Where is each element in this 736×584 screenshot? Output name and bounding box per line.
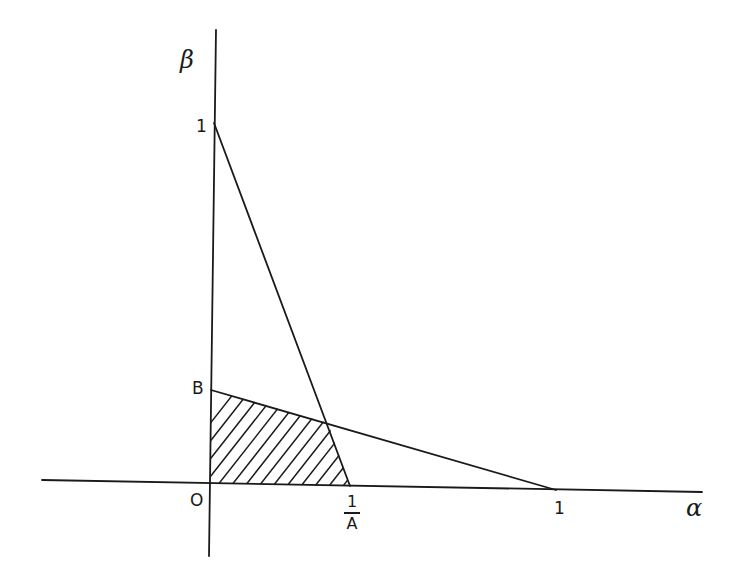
frac-denominator: A — [347, 516, 358, 532]
beta-axis-label: β — [180, 48, 194, 72]
alpha-tick-inv-A: 1 A — [344, 494, 360, 532]
beta-tick-one: 1 — [196, 118, 207, 135]
y-axis — [209, 30, 216, 556]
line-B-to-1 — [211, 390, 556, 490]
frac-numerator: 1 — [347, 494, 357, 510]
beta-tick-B: B — [192, 380, 204, 397]
alpha-tick-one: 1 — [554, 500, 565, 517]
origin-label: O — [190, 492, 203, 509]
alpha-axis-label: α — [686, 496, 702, 520]
line-1-to-1-over-A — [214, 123, 350, 486]
x-axis — [42, 480, 702, 492]
constraint-diagram — [0, 0, 736, 584]
